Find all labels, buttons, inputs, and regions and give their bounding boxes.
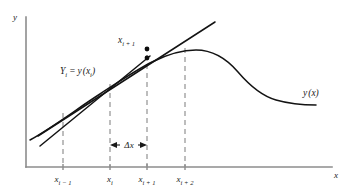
curve-name-label: y(x) <box>302 88 319 99</box>
math-diagram: y x Δx <box>0 0 346 193</box>
tick-label-xi-plus-2: xi + 2 <box>176 174 195 185</box>
ordinate-equation-label: Yi=y(xi) <box>60 66 95 77</box>
marker-point-on-curve <box>145 56 150 61</box>
curve-label-base: y <box>302 88 308 98</box>
function-curve <box>30 50 316 140</box>
ordinate-rhs-close: ) <box>91 66 95 77</box>
delta-x-label: Δx <box>123 140 133 150</box>
delta-x-arrow-head-left <box>110 142 117 148</box>
tick-label-sub: i <box>111 178 113 185</box>
tick-label-sub: i + 2 <box>181 178 195 185</box>
marker-point-on-tangent-line <box>145 47 150 52</box>
ordinate-rhs-base: y <box>77 66 83 76</box>
point-label-xi-plus-1: xi + 1 <box>117 35 135 46</box>
ordinate-equation-text: Yi=y(xi) <box>60 66 95 77</box>
ordinate-equals-sign: = <box>70 66 75 76</box>
point-label-sub: i + 1 <box>122 39 135 46</box>
axes-group <box>26 17 332 167</box>
point-label-text: xi + 1 <box>117 35 135 46</box>
delta-x-arrow-head-right <box>140 142 147 148</box>
tick-label-xi-minus-1: xi − 1 <box>54 174 72 185</box>
y-axis-label: y <box>12 12 17 22</box>
curve-label-arg: (x) <box>308 88 319 99</box>
tick-label-sub: i + 1 <box>143 178 156 185</box>
ordinate-lhs-sub: i <box>65 70 67 77</box>
delta-x-annotation-group: Δx <box>110 140 147 151</box>
curve-name-text: y(x) <box>302 88 319 99</box>
x-axis-label: x <box>333 170 338 180</box>
figure-container: y x Δx <box>0 0 346 193</box>
tick-label-xi: xi <box>106 174 113 185</box>
x-tick-labels-group: xi − 1 xi xi + 1 xi + 2 <box>54 174 195 185</box>
tick-label-xi-plus-1: xi + 1 <box>138 174 156 185</box>
tick-label-sub: i − 1 <box>59 178 72 185</box>
